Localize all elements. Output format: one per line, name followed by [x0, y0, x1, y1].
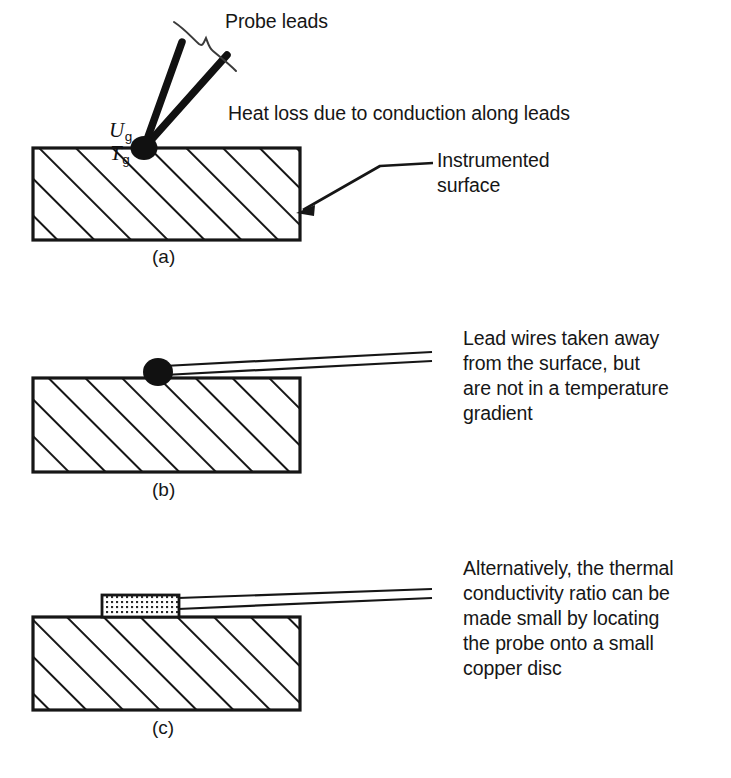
instrumented-surface-line1: Instrumented: [437, 148, 550, 174]
probe-bead-b: [143, 358, 173, 386]
symbol-t-base: T: [110, 141, 122, 165]
substrate-block-a: [33, 148, 300, 240]
lead-wires-b: [164, 352, 432, 375]
symbol-t-g: Tg: [89, 116, 129, 191]
caption-b: (b): [152, 479, 175, 501]
copper-disc-note-line5: copper disc: [463, 656, 562, 682]
lead-wires-note-line1: Lead wires taken away: [463, 326, 659, 352]
copper-disc-note-line2: conductivity ratio can be: [463, 581, 670, 607]
figure-container: Probe leads Heat loss due to conduction …: [0, 0, 731, 778]
probe-bead-a: [131, 136, 158, 160]
lead-wires-note-line3: are not in a temperature: [463, 376, 669, 402]
instrumented-surface-leader: [296, 163, 433, 216]
caption-c: (c): [152, 717, 174, 739]
caption-a: (a): [152, 246, 175, 268]
panel-b: [33, 352, 432, 472]
heat-loss-label: Heat loss due to conduction along leads: [228, 101, 570, 127]
instrumented-surface-line2: surface: [437, 173, 500, 199]
copper-disc: [102, 595, 179, 617]
probe-leads-label: Probe leads: [225, 9, 328, 35]
panel-c: [33, 589, 432, 710]
substrate-block-b: [33, 378, 300, 472]
copper-disc-note-line3: made small by locating: [463, 606, 659, 632]
probe-lead-wires: [144, 42, 227, 148]
symbol-t-subscript: g: [122, 152, 130, 167]
substrate-block-c: [33, 617, 300, 710]
copper-disc-note-line1: Alternatively, the thermal: [463, 556, 674, 582]
lead-wires-c: [178, 589, 432, 609]
lead-wires-note-line4: gradient: [463, 401, 533, 427]
lead-wires-note-line2: from the surface, but: [463, 351, 640, 377]
copper-disc-note-line4: the probe onto a small: [463, 631, 654, 657]
